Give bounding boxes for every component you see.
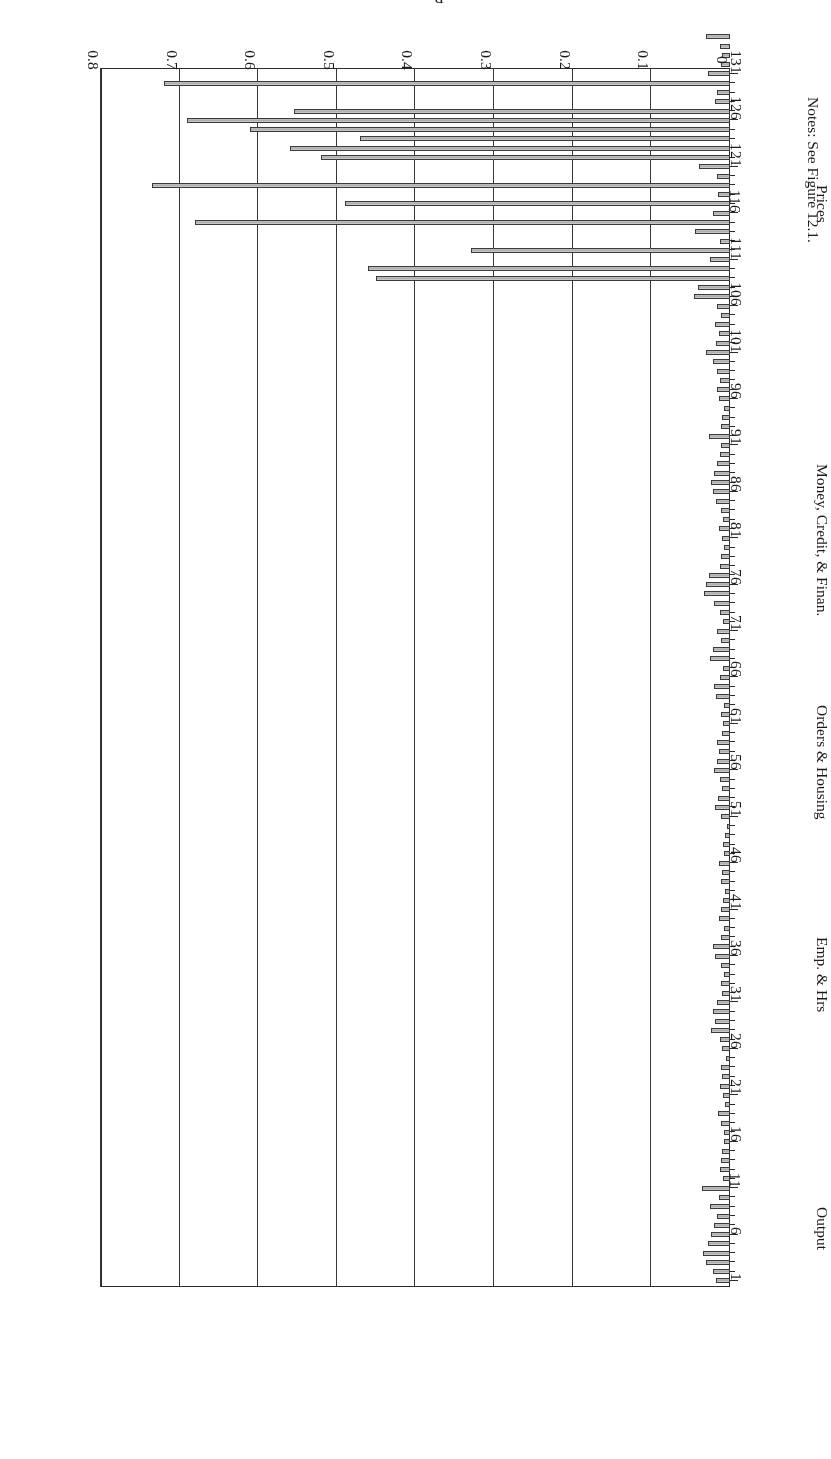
axis-tick [730, 1020, 735, 1021]
category-tick-label: 1 [728, 1273, 744, 1281]
value-tick-label: 0.2 [557, 50, 573, 69]
value-tick-label: 0.4 [400, 50, 416, 69]
axis-tick [730, 1196, 735, 1197]
axis-tick [730, 1169, 735, 1170]
axis-tick [730, 639, 735, 640]
category-tick-label: 126 [728, 97, 744, 121]
axis-tick [730, 612, 735, 613]
axis-tick [730, 1243, 735, 1244]
category-tick-label: 106 [728, 282, 744, 306]
group-axis-labels: OutputEmp. & HrsOrders & HousingMoney, C… [782, 68, 822, 1287]
axis-tick [730, 1150, 735, 1151]
axis-tick [730, 1066, 735, 1067]
axis-tick [730, 268, 735, 269]
category-tick-label: 111 [728, 237, 744, 260]
axis-tick [730, 129, 735, 130]
axis-tick [730, 751, 735, 752]
axis-tick [730, 379, 735, 380]
axis-tick [730, 936, 735, 937]
group-label: Orders & Housing [814, 705, 830, 820]
value-tick-label: 0.7 [164, 50, 180, 69]
value-tick-label: 0.1 [636, 50, 652, 69]
value-axis-labels: 00.10.20.30.40.50.60.70.8 [101, 20, 730, 68]
axis-tick [730, 472, 735, 473]
axis-tick [730, 844, 735, 845]
axis-tick [730, 742, 735, 743]
axis-tick [730, 834, 735, 835]
axis-tick [730, 1224, 735, 1225]
category-tick-label: 76 [728, 569, 744, 585]
category-tick-label: 101 [728, 329, 744, 353]
axis-tick [730, 704, 735, 705]
rsquare-bar-chart: 1611162126313641465156616671768186919610… [101, 68, 730, 1287]
axis-tick [730, 686, 735, 687]
axis-tick [730, 509, 735, 510]
axis-tick [730, 881, 735, 882]
group-label: Money, Credit, & Finan. [814, 464, 830, 616]
axis-tick [730, 593, 735, 594]
axis-tick [730, 602, 735, 603]
axis-tick [730, 175, 735, 176]
group-label: Output [814, 1207, 830, 1250]
category-tick-label: 66 [728, 662, 744, 678]
axis-tick [730, 983, 735, 984]
category-axis-ticks [101, 68, 730, 1287]
axis-tick [730, 1159, 735, 1160]
axis-tick [730, 695, 735, 696]
axis-tick [730, 184, 735, 185]
axis-tick [730, 890, 735, 891]
category-tick-label: 86 [728, 476, 744, 492]
axis-tick [730, 732, 735, 733]
category-tick-label: 26 [728, 1033, 744, 1049]
axis-tick [730, 370, 735, 371]
axis-tick [730, 463, 735, 464]
category-tick-label: 11 [728, 1173, 744, 1188]
axis-tick [730, 82, 735, 83]
axis-tick [730, 407, 735, 408]
axis-tick [730, 779, 735, 780]
category-tick-label: 116 [728, 190, 744, 213]
axis-tick [730, 974, 735, 975]
axis-tick [730, 1215, 735, 1216]
category-tick-label: 51 [728, 801, 744, 817]
axis-tick [730, 1104, 735, 1105]
axis-tick [730, 649, 735, 650]
axis-tick [730, 1057, 735, 1058]
axis-tick [730, 547, 735, 548]
axis-tick [730, 231, 735, 232]
axis-tick [730, 222, 735, 223]
category-axis-labels: 1611162126313641465156616671768186919610… [736, 68, 776, 1287]
category-tick-label: 46 [728, 847, 744, 863]
axis-tick [730, 964, 735, 965]
figure-note: Notes: See Figure 12.1. [804, 97, 822, 243]
axis-tick [730, 1011, 735, 1012]
category-tick-label: 16 [728, 1126, 744, 1142]
axis-tick [730, 1271, 735, 1272]
axis-tick [730, 277, 735, 278]
axis-tick [730, 138, 735, 139]
category-tick-label: 56 [728, 754, 744, 770]
axis-tick [730, 519, 735, 520]
category-tick-label: 81 [728, 522, 744, 538]
axis-tick [730, 314, 735, 315]
axis-tick [730, 1076, 735, 1077]
category-tick-label: 31 [728, 987, 744, 1003]
axis-tick [730, 361, 735, 362]
axis-tick [730, 871, 735, 872]
category-tick-label: 96 [728, 383, 744, 399]
axis-tick [730, 918, 735, 919]
axis-tick [730, 658, 735, 659]
group-label: Emp. & Hrs [814, 937, 830, 1012]
category-tick-label: 21 [728, 1079, 744, 1095]
axis-tick [730, 1261, 735, 1262]
axis-tick [730, 1252, 735, 1253]
category-tick-label: 91 [728, 429, 744, 445]
category-tick-label: 36 [728, 940, 744, 956]
category-tick-label: 71 [728, 615, 744, 631]
axis-tick [730, 426, 735, 427]
axis-tick [730, 500, 735, 501]
axis-tick [730, 454, 735, 455]
axis-tick [730, 1122, 735, 1123]
value-tick-label: 0.3 [479, 50, 495, 69]
